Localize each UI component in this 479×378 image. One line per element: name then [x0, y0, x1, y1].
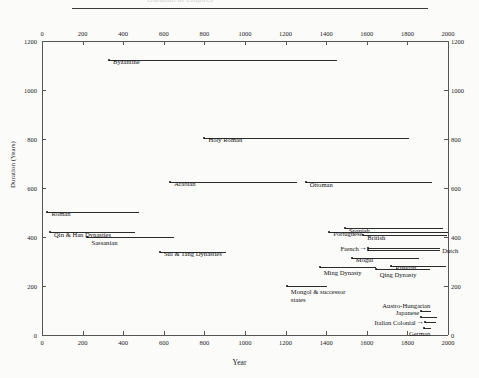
- series-segment[interactable]: [421, 311, 431, 312]
- series-start-marker: [367, 249, 369, 251]
- series-segment[interactable]: [425, 322, 437, 323]
- series-label: Ottoman: [310, 181, 333, 188]
- x-tick: [204, 331, 205, 335]
- series-segment[interactable]: [87, 237, 174, 238]
- x-tick-label: 0: [40, 339, 43, 346]
- series-start-marker: [344, 227, 346, 229]
- series-segment[interactable]: [424, 328, 431, 329]
- x-tick-label-top: 1800: [401, 30, 414, 37]
- x-tick: [326, 331, 327, 335]
- x-tick-top: [42, 41, 43, 45]
- x-tick: [42, 331, 43, 335]
- y-tick-label: 1200: [24, 38, 37, 45]
- x-tick-label: 1800: [401, 339, 414, 346]
- y-tick-label-right: 1000: [448, 87, 464, 94]
- x-tick-label-top: 600: [159, 30, 169, 37]
- series-label: Holy Roman: [208, 136, 242, 143]
- series-start-marker: [286, 285, 288, 287]
- series-label: German: [409, 330, 430, 337]
- series-label: Sassanian: [91, 239, 117, 246]
- y-tick-label-right: 800: [448, 136, 461, 143]
- series-segment[interactable]: [368, 248, 440, 249]
- x-tick: [164, 331, 165, 335]
- leader-arrow-icon: →: [359, 244, 367, 252]
- series-start-marker: [424, 321, 426, 323]
- x-tick-label: 1000: [239, 339, 252, 346]
- x-tick-label: 200: [78, 339, 88, 346]
- series-start-marker: [169, 181, 171, 183]
- x-tick-top: [164, 41, 165, 45]
- series-segment[interactable]: [320, 267, 376, 268]
- series-start-marker: [108, 59, 110, 61]
- y-tick-label: 400: [27, 234, 37, 241]
- x-tick: [83, 331, 84, 335]
- x-tick: [245, 331, 246, 335]
- series-segment[interactable]: [368, 250, 440, 251]
- y-tick-label: 600: [27, 185, 37, 192]
- series-start-marker: [375, 268, 377, 270]
- series-label: British: [367, 234, 385, 241]
- x-tick-top: [83, 41, 84, 45]
- x-tick-top: [204, 41, 205, 45]
- x-tick-top: [286, 41, 287, 45]
- x-tick-label-top: 1600: [360, 30, 373, 37]
- y-tick-label-right: 600: [448, 185, 461, 192]
- series-start-marker: [49, 231, 51, 233]
- y-tick: [42, 237, 46, 238]
- chart-figure: Duration of Empires 00200200400400600600…: [0, 0, 479, 378]
- series-label: Sui & Tang Dynasties: [164, 250, 222, 257]
- x-tick-top: [367, 41, 368, 45]
- y-tick-label-right: 1200: [448, 38, 464, 45]
- series-label: Mogul: [356, 256, 374, 263]
- x-tick-top: [123, 41, 124, 45]
- series-segment[interactable]: [287, 286, 327, 287]
- y-tick-label-right: 200: [448, 283, 461, 290]
- x-tick-label-top: 0: [40, 30, 43, 37]
- y-tick: [42, 188, 46, 189]
- series-segment[interactable]: [109, 60, 337, 61]
- y-tick: [42, 139, 46, 140]
- series-start-marker: [319, 266, 321, 268]
- y-tick: [42, 90, 46, 91]
- series-start-marker: [362, 234, 364, 236]
- series-label: Arabian: [174, 180, 195, 187]
- x-tick-label: 1400: [320, 339, 333, 346]
- plot-area: 0020020040040060060080080010001000120012…: [42, 41, 448, 335]
- series-start-marker: [86, 236, 88, 238]
- series-label: Ming Dynasty: [324, 269, 362, 276]
- leader-arrow-icon: →: [416, 318, 424, 326]
- y-tick-label: 1000: [24, 87, 37, 94]
- y-tick-label-right: 400: [448, 234, 461, 241]
- x-tick-label-top: 2000: [442, 30, 455, 37]
- x-tick: [123, 331, 124, 335]
- series-label: Roman: [51, 210, 70, 217]
- series-label: Byzantine: [113, 58, 140, 65]
- cut-off-title: Duration of Empires: [100, 0, 260, 3]
- x-tick-label-top: 1200: [279, 30, 292, 37]
- x-tick-label: 800: [200, 339, 210, 346]
- series-label: Dutch: [442, 247, 458, 254]
- series-start-marker: [328, 231, 330, 233]
- x-tick-label: 600: [159, 339, 169, 346]
- x-axis-bottom: [42, 335, 448, 336]
- y-tick-label: 800: [27, 136, 37, 143]
- series-label: Italian Colonial: [374, 319, 415, 326]
- x-tick-label-top: 400: [118, 30, 128, 37]
- x-tick: [367, 331, 368, 335]
- x-tick-label-top: 1000: [239, 30, 252, 37]
- x-tick-label-top: 200: [78, 30, 88, 37]
- series-segment[interactable]: [376, 269, 430, 270]
- series-start-marker: [390, 265, 392, 267]
- x-tick-label: 400: [118, 339, 128, 346]
- x-axis-title: Year: [0, 358, 479, 367]
- series-start-marker: [423, 327, 425, 329]
- x-tick-label: 1600: [360, 339, 373, 346]
- x-tick: [448, 331, 449, 335]
- series-label: Mongol & successor states: [291, 288, 353, 304]
- series-start-marker: [420, 310, 422, 312]
- series-start-marker: [305, 181, 307, 183]
- y-tick: [42, 335, 46, 336]
- x-tick-top: [245, 41, 246, 45]
- series-start-marker: [159, 251, 161, 253]
- x-tick-top: [407, 41, 408, 45]
